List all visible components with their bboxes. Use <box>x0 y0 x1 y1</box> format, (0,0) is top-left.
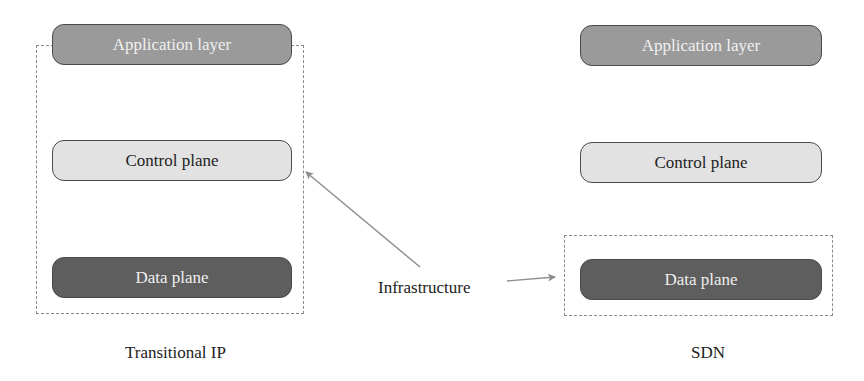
arrow-to-left-infrastructure <box>306 172 420 267</box>
arrow-to-right-infrastructure <box>507 277 555 281</box>
sdn-vs-ip-diagram: Application layer Control plane Data pla… <box>0 0 864 381</box>
arrows <box>0 0 864 381</box>
